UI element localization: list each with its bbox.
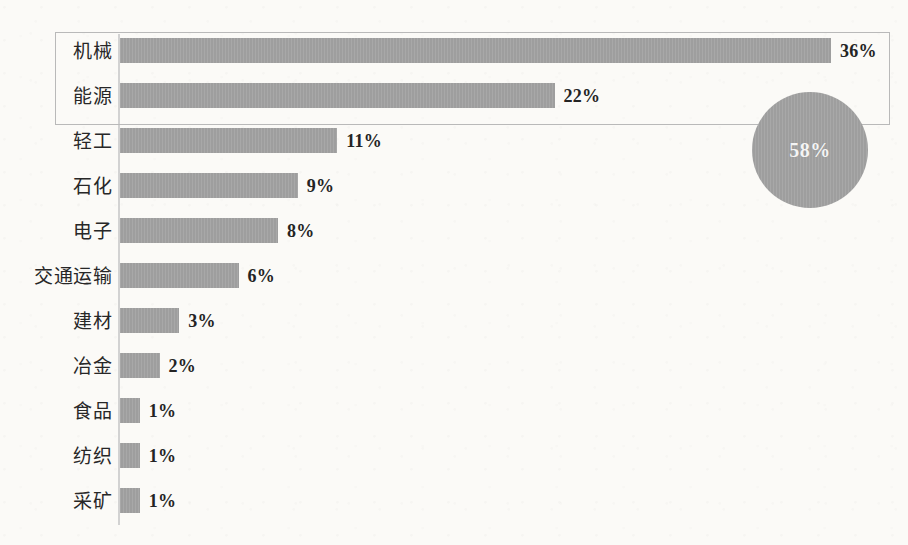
bar-category-label: 建材 [73,311,112,330]
top-two-highlight-box [55,32,890,125]
bar-value-label: 1% [149,447,177,465]
bar-category-label: 纺织 [73,446,112,465]
bar-value-label: 1% [149,402,177,420]
bar-row: 交通运输6% [0,263,908,288]
bar [120,128,337,153]
bar [120,488,140,513]
chart-canvas: 机械36%能源22%轻工11%石化9%电子8%交通运输6%建材3%冶金2%食品1… [0,0,908,545]
bar-value-label: 11% [346,132,382,150]
bar-category-label: 电子 [73,221,112,240]
bar [120,173,298,198]
bar-row: 纺织1% [0,443,908,468]
bar [120,353,160,378]
bar-value-label: 9% [307,177,335,195]
bar-value-label: 1% [149,492,177,510]
bar-category-label: 冶金 [73,356,112,375]
bar-value-label: 3% [188,312,216,330]
sum-bubble-label: 58% [789,140,831,160]
bar-row: 采矿1% [0,488,908,513]
bar-row: 电子8% [0,218,908,243]
bar [120,308,179,333]
bar [120,263,239,288]
bar [120,443,140,468]
bar-row: 建材3% [0,308,908,333]
bar-category-label: 交通运输 [34,266,112,285]
bar [120,398,140,423]
bar-value-label: 6% [248,267,276,285]
bar-value-label: 2% [169,357,197,375]
bar-category-label: 采矿 [73,491,112,510]
bar [120,218,278,243]
bar-category-label: 石化 [73,176,112,195]
bar-category-label: 轻工 [73,131,112,150]
sum-bubble: 58% [752,92,868,208]
bar-value-label: 8% [287,222,315,240]
bar-category-label: 食品 [73,401,112,420]
bar-row: 食品1% [0,398,908,423]
bar-row: 冶金2% [0,353,908,378]
bar-chart-plot-area: 机械36%能源22%轻工11%石化9%电子8%交通运输6%建材3%冶金2%食品1… [0,0,908,545]
